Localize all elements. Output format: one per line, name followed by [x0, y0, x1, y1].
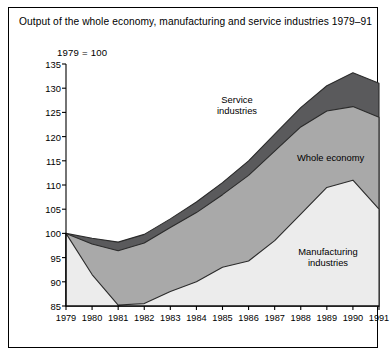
x-axis-label: 1988 [291, 313, 311, 323]
x-axis-label: 1985 [212, 313, 232, 323]
y-axis-tick-labels: 859095100105110115120125130135 [33, 64, 61, 306]
x-axis-label: 1989 [317, 313, 337, 323]
y-axis-label: 85 [51, 301, 61, 312]
figure-panel: Output of the whole economy, manufacturi… [8, 7, 378, 348]
x-axis-label: 1984 [186, 313, 206, 323]
series-label-manufacturing-industries: Manufacturing industries [290, 246, 366, 269]
x-axis-label: 1982 [134, 313, 154, 323]
y-axis-label: 120 [45, 131, 61, 142]
chart-subtitle: 1979 = 100 [57, 47, 107, 58]
x-axis-tick-labels: 1979198019811982198319841985198619871988… [66, 313, 379, 329]
series-label-service-line2: industries [205, 105, 269, 116]
x-axis-label: 1979 [56, 313, 76, 323]
chart-title: Output of the whole economy, manufacturi… [19, 16, 372, 27]
y-axis-label: 105 [45, 204, 61, 215]
x-axis-label: 1991 [369, 313, 389, 323]
y-axis-label: 100 [45, 228, 61, 239]
series-label-service-line1: Service [205, 94, 269, 105]
y-axis-label: 125 [45, 107, 61, 118]
y-axis-label: 110 [46, 180, 61, 191]
x-axis-label: 1980 [82, 313, 102, 323]
x-axis-label: 1986 [238, 313, 258, 323]
y-axis-label: 115 [46, 155, 61, 166]
x-axis-label: 1981 [108, 313, 128, 323]
y-axis-label: 135 [45, 59, 61, 70]
x-axis-label: 1983 [160, 313, 180, 323]
y-axis-label: 130 [45, 83, 61, 94]
x-axis-label: 1990 [343, 313, 363, 323]
series-label-manufacturing-line1: Manufacturing [290, 246, 366, 257]
series-label-manufacturing-line2: industries [290, 257, 366, 268]
x-axis-label: 1987 [264, 313, 284, 323]
series-label-service-industries: Service industries [205, 94, 269, 117]
series-label-whole-economy: Whole economy [297, 152, 364, 163]
y-axis-label: 90 [51, 276, 61, 287]
y-axis-label: 95 [51, 252, 61, 263]
